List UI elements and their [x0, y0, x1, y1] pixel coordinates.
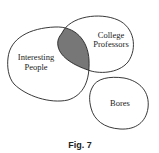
- venn-diagram: College Professors Interesting People Bo…: [0, 0, 159, 153]
- intersection-shaded-region: [8, 27, 89, 101]
- label-professors: Professors: [93, 39, 128, 49]
- label-bores: Bores: [110, 98, 130, 108]
- label-interesting: Interesting: [18, 52, 55, 62]
- label-people: People: [24, 62, 47, 72]
- figure-caption: Fig. 7: [68, 140, 92, 150]
